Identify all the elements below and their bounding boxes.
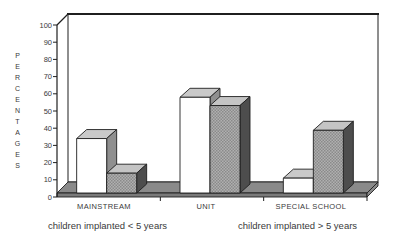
bar-unit-over5-side	[240, 97, 250, 193]
category-label-special-school: SPECIAL SCHOOL	[276, 202, 347, 211]
floor-front	[57, 193, 367, 197]
wall-corner-edge	[57, 14, 68, 25]
bar-unit-under5	[180, 97, 210, 193]
bar-special-school-over5-side	[343, 121, 353, 193]
category-label-mainstream: MAINSTREAM	[77, 202, 131, 211]
scanned-bar-chart-figure: PERCENTAGES 0102030405060708090100 MAINS…	[0, 0, 398, 242]
bar-special-school-under5	[283, 178, 313, 193]
legend-implanted-under-5-years: children implanted < 5 years	[48, 220, 167, 231]
legend-implanted-over-5-years: children implanted > 5 years	[238, 220, 357, 231]
bar-special-school-over5	[313, 130, 343, 193]
bar-mainstream-under5	[77, 139, 107, 193]
category-label-unit: UNIT	[196, 202, 215, 211]
bar-unit-over5	[210, 106, 240, 193]
bar-mainstream-over5	[107, 173, 137, 193]
